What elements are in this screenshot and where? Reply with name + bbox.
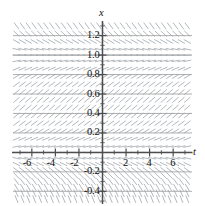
slope-segment [73, 23, 77, 29]
slope-segment [155, 75, 161, 79]
slope-segment [66, 67, 73, 70]
slope-segment [185, 173, 190, 178]
slope-segment [156, 179, 160, 185]
slope-segment [154, 137, 161, 140]
slope-segment [48, 67, 55, 70]
slope-segment [179, 105, 185, 110]
slope-segment [78, 75, 84, 79]
slope-segment [31, 168, 37, 172]
slope-segment [50, 23, 54, 29]
slope-segment [161, 121, 167, 125]
slope-segment [161, 129, 167, 133]
slope-segment [79, 105, 85, 110]
slope-segment [173, 105, 179, 110]
slope-segment [143, 82, 149, 86]
slope-segment [167, 179, 171, 185]
slope-segment [114, 82, 120, 86]
slope-segment [85, 23, 89, 29]
slope-segment [166, 75, 172, 79]
slope-segment [109, 179, 113, 185]
slope-segment [78, 67, 85, 70]
slope-segment [185, 23, 189, 29]
slope-segment [143, 75, 149, 79]
slope-segment [155, 82, 161, 86]
slope-segment [179, 173, 184, 178]
slope-segment [179, 23, 183, 29]
slope-segment [108, 75, 114, 79]
slope-segment [126, 97, 132, 102]
slope-segment [66, 137, 73, 140]
slope-segment [156, 23, 160, 29]
slope-segment [184, 40, 190, 44]
slope-segment [19, 75, 25, 79]
y-tick-label: 1.2 [87, 30, 100, 41]
slope-segment [43, 82, 49, 86]
slope-segment [185, 184, 189, 190]
slope-segment [44, 179, 48, 185]
slope-segment [173, 121, 179, 125]
slope-segment [143, 97, 149, 102]
slope-segment [162, 23, 166, 29]
slope-segment [55, 75, 61, 79]
slope-field-figure: -6-4-22461.21.00.80.60.40.2-0.2-0.4 x t [0, 0, 205, 206]
slope-segment [166, 40, 172, 44]
slope-segment [90, 82, 96, 86]
slope-segment [155, 121, 161, 125]
slope-segment [155, 168, 161, 172]
slope-segment [43, 67, 50, 70]
slope-segment [162, 179, 166, 185]
slope-segment [72, 40, 78, 44]
slope-segment [120, 121, 126, 125]
slope-segment [127, 196, 130, 203]
slope-segment [113, 67, 120, 70]
slope-segment [25, 40, 31, 44]
slope-segment [56, 196, 59, 203]
slope-segment [66, 75, 72, 79]
slope-segment [32, 184, 36, 190]
slope-segment [138, 184, 142, 190]
slope-segment [31, 121, 37, 125]
slope-segment [143, 137, 150, 140]
slope-segment [20, 97, 26, 102]
slope-segment [174, 196, 177, 203]
slope-segment [186, 196, 189, 203]
slope-segment [178, 82, 184, 86]
slope-segment [120, 97, 126, 102]
slope-segment [173, 82, 179, 86]
slope-segment [20, 173, 25, 178]
slope-segment [119, 40, 125, 44]
slope-segment [160, 163, 167, 166]
slope-segment [178, 137, 185, 140]
slope-segment [168, 196, 171, 203]
slope-segment [38, 23, 42, 29]
slope-segment [125, 75, 131, 79]
slope-segment [38, 173, 43, 178]
slope-segment [21, 184, 25, 190]
slope-segment [109, 184, 113, 190]
slope-segment [26, 105, 32, 110]
x-tick-label: -4 [46, 158, 54, 169]
slope-segment [149, 97, 155, 102]
x-axis-label: t [193, 147, 196, 158]
slope-segment [79, 179, 83, 185]
slope-segment [25, 121, 31, 125]
slope-segment [162, 196, 165, 203]
slope-segment [139, 196, 142, 203]
slope-segment [137, 168, 143, 172]
y-tick-label: 0.6 [87, 89, 100, 100]
slope-segment [174, 184, 178, 190]
slope-segment [31, 105, 37, 110]
slope-segment [84, 121, 90, 125]
slope-segment [114, 179, 118, 185]
slope-segment [38, 179, 42, 185]
slope-segment [133, 196, 136, 203]
slope-segment [121, 184, 125, 190]
slope-segment [19, 67, 26, 70]
slope-segment [137, 105, 143, 110]
slope-segment [155, 173, 160, 178]
slope-segment [37, 163, 44, 166]
slope-segment [19, 129, 25, 133]
slope-segment [43, 97, 49, 102]
slope-segment [107, 137, 114, 140]
slope-segment [137, 163, 144, 166]
